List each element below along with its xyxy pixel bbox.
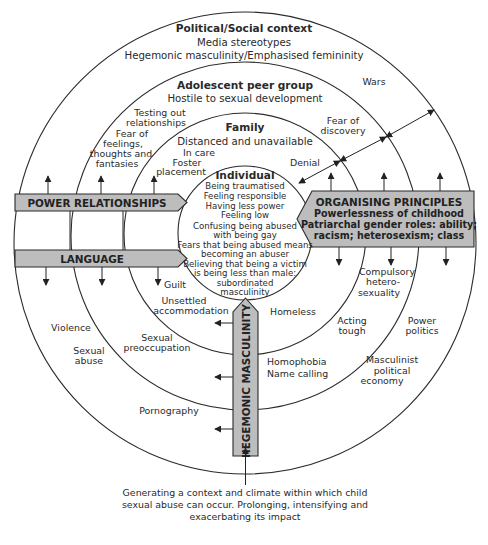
sexual-preoccupation-label: preoccupation [123,342,190,353]
individual-line: Feeling responsible [204,191,287,201]
homophobia-label: Homophobia [267,356,327,367]
fear-feelings-label: fantasies [96,158,139,169]
hegemonic-masculinity-arrow: HEGEMONIC MASCULINITY [233,298,258,458]
caption-line: Generating a context and climate within … [123,487,368,498]
political-line: Hegemonic masculinity/Emphasised feminin… [124,50,363,61]
organising-line: racism; heterosexism; class [314,230,465,241]
language-arrow: LANGUAGE [15,250,187,267]
individual-line: masculinity [220,287,269,297]
masculinist-label: economy [360,375,403,386]
individual-title: Individual [215,169,274,181]
organising-principles-title: ORGANISING PRINCIPLES [316,196,463,208]
foster-label: placement [156,166,206,177]
power-relationships-label: POWER RELATIONSHIPS [27,197,166,209]
testing-label: relationships [126,117,186,128]
homeless-label: Homeless [270,306,316,317]
double-arrow-icon [386,110,434,137]
adolescent-line: Hostile to sexual development [167,93,322,104]
masculinist-label: Masculinist [366,354,418,365]
guilt-label: Guilt [164,279,186,290]
caption-line: sexual abuse can occur. Prolonging, inte… [122,499,368,510]
organising-line: Powerlessness of childhood [314,208,464,219]
ecological-model-diagram: POWER RELATIONSHIPS LANGUAGE ORGANISING … [0,0,488,545]
individual-line: Being traumatised [205,181,284,191]
acting-tough-label: tough [338,325,365,336]
homophobia-label: Name calling [267,368,328,379]
language-label: LANGUAGE [60,253,124,265]
individual-line: becoming an abuser [201,249,289,259]
caption-line: exacerbating its impact [190,511,301,522]
individual-line: Feeling low [221,210,269,220]
compulsory-label: hetero- [366,276,400,287]
power-politics-label: politics [405,325,438,336]
political-social-title: Political/Social context [176,22,312,34]
pornography-label: Pornography [139,405,199,416]
organising-principles-arrow: ORGANISING PRINCIPLES Powerlessness of c… [297,191,477,247]
double-arrow-icon [340,137,386,161]
denial-label: Denial [290,157,320,168]
power-relationships-arrow: POWER RELATIONSHIPS [15,194,187,211]
unsettled-label: accommodation [153,305,229,316]
family-title: Family [226,121,265,133]
violence-label: Violence [51,322,91,333]
fear-discovery-label: discovery [320,125,366,136]
compulsory-label: sexuality [358,287,401,298]
political-line: Media stereotypes [197,37,291,48]
organising-line: Patriarchal gender roles: ability; [301,219,477,230]
individual-line: with being gay [213,230,277,240]
wars-label: Wars [362,76,385,87]
individual-line: is being less than male: [194,268,296,278]
adolescent-title: Adolescent peer group [177,79,313,91]
sexual-abuse-label: abuse [75,355,104,366]
hegemonic-masculinity-label: HEGEMONIC MASCULINITY [240,304,252,458]
family-line: Distanced and unavailable [177,136,313,147]
